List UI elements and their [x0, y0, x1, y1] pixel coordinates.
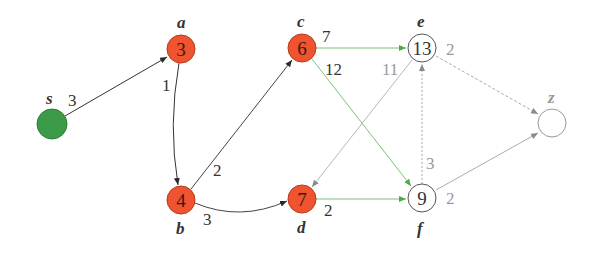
edge-f-z: [436, 133, 538, 190]
node-label-s: s: [45, 89, 53, 108]
node-value-a: 3: [176, 39, 186, 60]
weight-c-f: 12: [325, 60, 342, 79]
node-value-c: 6: [297, 38, 307, 59]
node-value-b: 4: [176, 190, 186, 211]
node-z[interactable]: z: [538, 88, 566, 137]
weight-c-e: 7: [322, 27, 331, 46]
weight-a-b: 1: [162, 76, 171, 95]
graph-diagram: 3 1 2 3 7 12 2 11 3 2 2 s 3 a 4 b 6 c: [0, 0, 597, 258]
node-label-d: d: [297, 218, 306, 237]
edge-b-c: [191, 60, 292, 189]
node-label-a: a: [177, 13, 186, 32]
nodes: s 3 a 4 b 6 c 7 d 13 e 9 f: [37, 12, 566, 238]
node-value-e: 13: [413, 38, 432, 59]
edge-e-z: [436, 56, 538, 114]
node-label-b: b: [176, 219, 185, 238]
node-e[interactable]: 13 e: [408, 12, 436, 62]
weight-d-f: 2: [324, 201, 333, 220]
node-label-e: e: [417, 12, 425, 31]
node-value-d: 7: [297, 189, 307, 210]
node-c[interactable]: 6 c: [288, 12, 316, 62]
node-label-c: c: [297, 12, 305, 31]
weight-b-d: 3: [203, 210, 212, 229]
edge-a-b: [173, 63, 179, 185]
weight-e-d: 11: [382, 60, 398, 79]
weight-s-a: 3: [68, 91, 77, 110]
node-d[interactable]: 7 d: [288, 185, 316, 237]
node-s[interactable]: s: [37, 89, 67, 139]
weight-f-e: 3: [426, 154, 435, 173]
node-label-z: z: [547, 88, 555, 107]
node-a[interactable]: 3 a: [167, 13, 195, 63]
node-f[interactable]: 9 f: [408, 184, 436, 238]
node-label-f: f: [417, 219, 425, 238]
weight-b-c: 2: [213, 161, 222, 180]
weight-f-z: 2: [446, 189, 455, 208]
edge-s-a: [65, 57, 167, 116]
node-b[interactable]: 4 b: [167, 186, 195, 238]
node-value-f: 9: [417, 188, 427, 209]
weight-e-z: 2: [446, 40, 455, 59]
